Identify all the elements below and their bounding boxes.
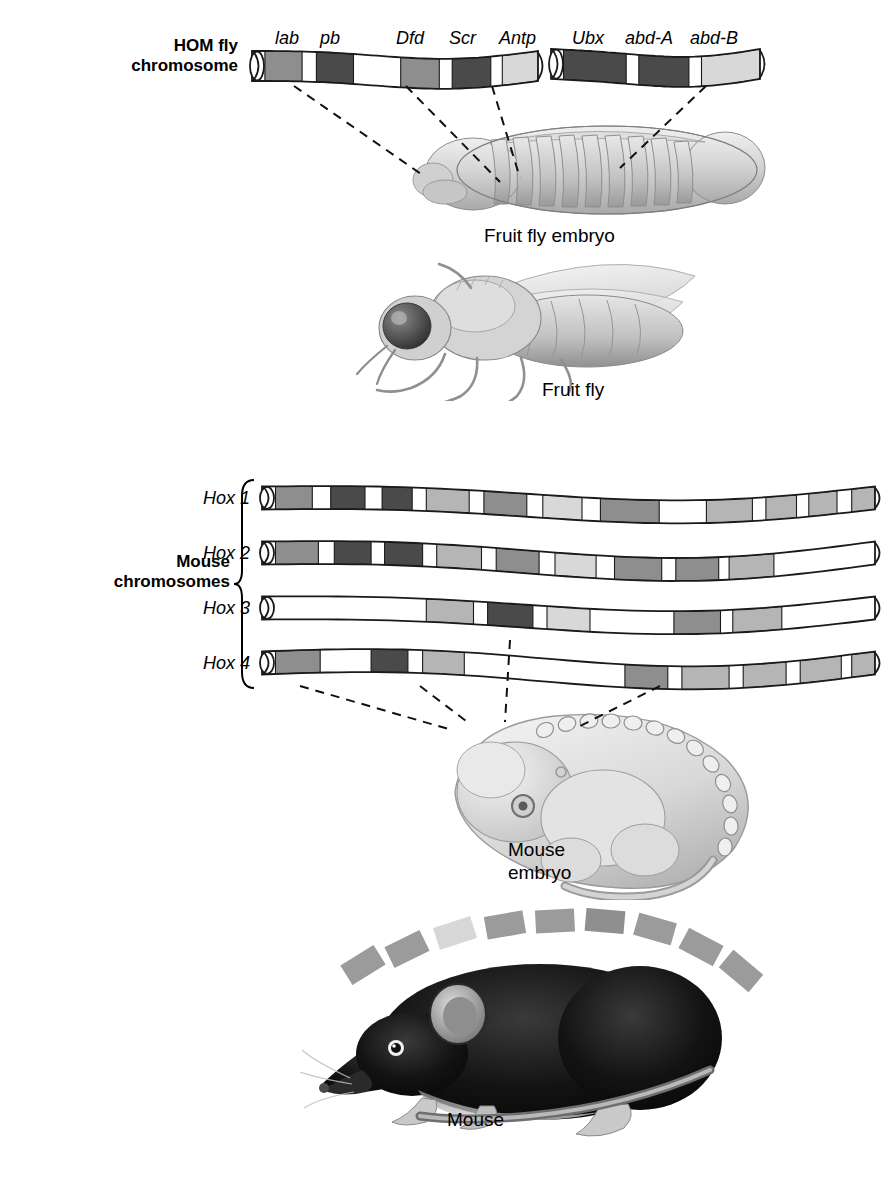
connector-lines: [0, 0, 895, 1182]
figure-canvas: HOM fly chromosome labpbDfdScrAntpUbxabd…: [0, 0, 895, 1182]
